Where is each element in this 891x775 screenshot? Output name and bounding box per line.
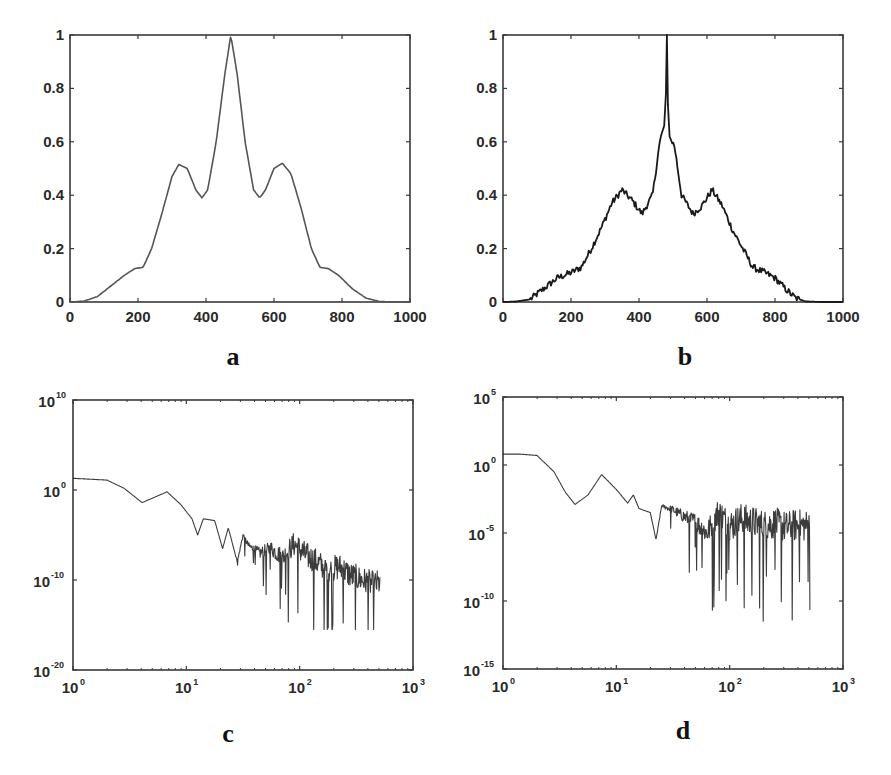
y-tick-label: 10 xyxy=(473,458,490,475)
axes-box xyxy=(503,35,843,302)
x-tick-label: 600 xyxy=(694,308,719,325)
svg-text:1: 1 xyxy=(623,676,628,686)
x-tick-label: 10 xyxy=(718,678,735,695)
y-tick-label: 0.6 xyxy=(476,133,497,150)
x-tick-label: 10 xyxy=(62,679,79,696)
x-tick-label: 400 xyxy=(626,308,651,325)
x-tick-label: 10 xyxy=(175,679,192,696)
y-tick-label: 10 xyxy=(33,573,50,590)
svg-text:-15: -15 xyxy=(481,659,494,669)
x-tick-label: 10 xyxy=(492,678,509,695)
figure-canvas: 0200400600800100000.20.40.60.81020040060… xyxy=(0,0,891,775)
svg-text:3: 3 xyxy=(850,676,855,686)
svg-text:0: 0 xyxy=(491,455,496,465)
svg-text:0: 0 xyxy=(80,677,85,687)
x-tick-label: 0 xyxy=(66,308,74,325)
x-tick-label: 200 xyxy=(125,308,150,325)
y-tick-label: 10 xyxy=(473,390,490,407)
x-tick-label: 400 xyxy=(193,308,218,325)
x-tick-label: 10 xyxy=(288,679,305,696)
axes-box xyxy=(70,35,410,302)
svg-text:1: 1 xyxy=(193,677,198,687)
y-tick-label: 1 xyxy=(489,26,497,43)
y-tick-label: 0.4 xyxy=(43,186,65,203)
y-tick-label: 10 xyxy=(468,526,485,543)
x-tick-label: 10 xyxy=(605,678,622,695)
y-tick-label: 0.6 xyxy=(43,133,64,150)
y-tick-label: 10 xyxy=(463,594,480,611)
panel-label-b: b xyxy=(678,342,692,372)
svg-text:3: 3 xyxy=(420,677,425,687)
y-tick-label: 0.8 xyxy=(43,79,64,96)
x-tick-label: 10 xyxy=(402,679,419,696)
panel-label-a: a xyxy=(227,342,240,372)
x-tick-label: 1000 xyxy=(393,308,426,325)
svg-text:0: 0 xyxy=(61,480,66,490)
data-line xyxy=(70,37,410,302)
panel-label-c: c xyxy=(222,719,234,749)
y-tick-label: 1 xyxy=(56,26,64,43)
y-tick-label: 0 xyxy=(56,293,64,310)
chart-panel-a: 0200400600800100000.20.40.60.81 xyxy=(43,26,427,325)
figure: 0200400600800100000.20.40.60.81020040060… xyxy=(0,0,891,775)
svg-text:-10: -10 xyxy=(51,570,64,580)
svg-text:-5: -5 xyxy=(486,523,494,533)
svg-text:0: 0 xyxy=(510,676,515,686)
y-tick-label: 0.2 xyxy=(476,240,497,257)
y-tick-label: 0 xyxy=(489,293,497,310)
chart-panel-b: 0200400600800100000.20.40.60.81 xyxy=(476,26,860,325)
y-tick-label: 0.8 xyxy=(476,79,497,96)
x-tick-label: 800 xyxy=(762,308,787,325)
data-line xyxy=(73,478,380,629)
y-tick-label: 0.4 xyxy=(476,186,498,203)
y-tick-label: 10 xyxy=(38,393,55,410)
y-tick-label: 10 xyxy=(43,483,60,500)
y-tick-label: 10 xyxy=(463,662,480,679)
y-tick-label: 0.2 xyxy=(43,240,64,257)
svg-text:-20: -20 xyxy=(51,660,64,670)
svg-text:-10: -10 xyxy=(481,591,494,601)
chart-panel-d: 10010110210310510010-510-1010-15 xyxy=(463,387,855,695)
x-tick-label: 1000 xyxy=(826,308,859,325)
x-tick-label: 600 xyxy=(261,308,286,325)
y-tick-label: 10 xyxy=(33,663,50,680)
panel-label-d: d xyxy=(676,716,690,746)
svg-text:2: 2 xyxy=(737,676,742,686)
svg-text:10: 10 xyxy=(56,390,66,400)
x-tick-label: 200 xyxy=(558,308,583,325)
svg-text:5: 5 xyxy=(491,387,496,397)
svg-text:2: 2 xyxy=(307,677,312,687)
data-line xyxy=(503,454,810,621)
chart-panel-c: 100101102103101010010-1010-20 xyxy=(33,390,425,696)
data-line xyxy=(503,35,843,302)
x-tick-label: 10 xyxy=(832,678,849,695)
x-tick-label: 0 xyxy=(499,308,507,325)
x-tick-label: 800 xyxy=(329,308,354,325)
